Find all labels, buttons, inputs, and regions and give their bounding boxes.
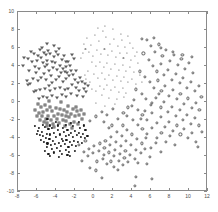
x-axis-tick-label: -4 [53,193,57,199]
data-point-cluster-points [93,56,94,57]
data-point-cluster-dots [49,133,51,135]
data-point-cluster-circles [183,102,186,105]
data-point-cluster-circles [104,139,107,142]
data-point-cluster-circles [159,46,162,49]
data-point-cluster-circles [130,104,133,107]
y-axis-tick [204,119,207,120]
data-point-cluster-dots [62,127,64,129]
data-point-cluster-triangles [22,56,26,59]
data-point-cluster-points [114,64,115,65]
data-point-cluster-triangles [52,45,56,48]
data-point-cluster-circles [194,140,197,143]
data-point-cluster-dots [48,138,50,140]
x-axis-tick [74,11,75,14]
data-point-cluster-circles [167,120,170,123]
data-point-cluster-points [106,37,107,38]
data-point-cluster-circles [130,133,133,136]
data-point-cluster-points [80,57,81,58]
data-point-cluster-triangles [41,95,45,98]
data-point-cluster-points [115,56,116,57]
y-axis-tick-label: -4 [0,134,14,140]
data-point-cluster-circles [89,119,92,122]
data-point-cluster-circles [153,50,156,53]
data-point-cluster-circles [92,145,95,148]
data-point-cluster-circles [101,157,104,160]
data-point-cluster-points [99,61,100,62]
scatter-plot-figure: -8-6-4-2024681012-10-8-6-4-20246810 [0,0,218,212]
data-point-cluster-squares [68,116,71,119]
data-point-cluster-circles [186,113,189,116]
data-point-cluster-squares [48,100,51,103]
data-point-cluster-squares [61,119,64,122]
data-point-cluster-dots [81,141,83,143]
data-point-cluster-triangles [54,79,58,82]
data-point-cluster-triangles [57,75,61,78]
data-point-cluster-triangles [72,57,76,60]
data-point-cluster-triangles [71,74,75,77]
data-point-cluster-points [122,65,123,66]
data-point-cluster-dots [58,141,60,143]
data-point-cluster-circles [168,135,171,138]
data-point-cluster-dots [70,122,72,124]
data-point-cluster-circles [146,38,149,41]
data-point-cluster-circles [145,136,148,139]
data-point-cluster-circles [154,96,157,99]
x-axis-tick [169,11,170,14]
data-point-cluster-circles [106,113,109,116]
y-axis-tick-label: 8 [0,26,14,32]
data-point-cluster-circles [120,135,123,138]
data-point-cluster-points [105,105,106,106]
data-point-cluster-triangles [43,87,47,90]
data-point-cluster-points [131,78,132,79]
data-point-cluster-points [83,43,84,44]
data-point-cluster-points [90,82,91,83]
data-point-cluster-squares [40,115,43,118]
data-point-cluster-circles [116,118,119,121]
data-point-cluster-squares [36,114,39,117]
data-point-cluster-circles [82,150,85,153]
data-point-cluster-triangles [78,76,82,79]
data-point-cluster-triangles [77,90,81,93]
data-point-cluster-triangles [64,77,68,80]
data-point-cluster-circles [97,149,100,152]
data-point-cluster-points [112,29,113,30]
data-point-cluster-points [118,92,119,93]
data-point-cluster-circles [163,100,166,103]
x-axis-tick [188,11,189,14]
data-point-cluster-circles [181,54,184,57]
data-point-cluster-circles [182,76,185,79]
data-point-cluster-circles [167,94,170,97]
data-point-cluster-dots [74,130,76,132]
data-point-cluster-dots [64,149,66,151]
data-point-cluster-circles [146,163,149,166]
data-point-cluster-circles [164,126,167,129]
data-point-cluster-squares [79,109,82,112]
data-point-cluster-circles [170,78,173,81]
data-point-cluster-dots [45,146,47,148]
data-point-cluster-triangles [64,95,68,98]
data-point-cluster-points [139,74,140,75]
data-point-cluster-circles [138,70,141,73]
y-axis-tick-label: 4 [0,62,14,68]
data-point-cluster-circles [134,148,137,151]
data-point-cluster-dots [59,150,61,152]
data-point-cluster-circles [156,79,159,82]
data-point-cluster-triangles [82,87,86,90]
data-point-cluster-triangles [66,61,70,64]
data-point-cluster-points [120,81,121,82]
data-point-cluster-triangles [40,47,44,50]
data-point-cluster-circles [160,131,163,134]
data-point-cluster-triangles [37,98,41,101]
data-point-cluster-points [93,74,94,75]
data-point-cluster-points [92,88,93,89]
data-point-cluster-circles [110,160,113,163]
data-point-cluster-squares [62,109,65,112]
data-point-cluster-circles [190,55,193,58]
data-point-cluster-circles [132,99,135,102]
data-point-cluster-circles [136,109,139,112]
x-axis-tick-label: -8 [15,193,19,199]
data-point-cluster-points [111,68,112,69]
data-point-cluster-triangles [45,64,49,67]
data-point-cluster-dots [63,131,65,133]
data-point-cluster-circles [189,81,192,84]
